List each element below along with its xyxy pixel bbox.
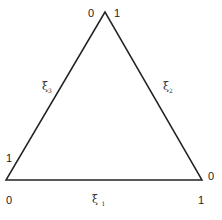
bottom-left-lower-label: 0	[6, 195, 12, 206]
top-vertex-left-label: 0	[88, 8, 94, 19]
edge-label-xi1: ξ 1	[92, 194, 105, 207]
edge-label-xi2: ξ2	[163, 81, 173, 94]
bottom-right-right-label: 0	[208, 171, 214, 182]
triangle	[0, 0, 222, 220]
triangle-outline	[6, 12, 202, 180]
edge-label-xi3: ξ3	[42, 81, 52, 94]
bottom-right-lower-label: 1	[198, 195, 204, 206]
bottom-left-upper-label: 1	[6, 153, 12, 164]
top-vertex-right-label: 1	[114, 8, 120, 19]
